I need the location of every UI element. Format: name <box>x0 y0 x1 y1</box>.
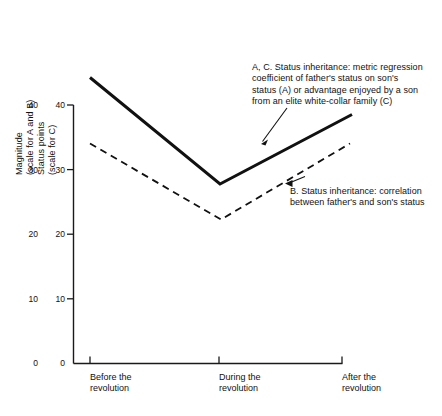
annotation-ac: A, C. Status inheritance: metric regress… <box>252 62 440 108</box>
y-tick-label-left-20: 20 <box>22 229 38 239</box>
y-tick-label-left-40: 40 <box>22 100 38 110</box>
y-tick-label-right-10: 10 <box>49 294 65 304</box>
annotation-b: B. Status inheritance: correlation betwe… <box>290 186 442 209</box>
x-tick-label-during: During the revolution <box>219 372 261 394</box>
y-tick-label-left-10: 10 <box>22 294 38 304</box>
y-tick-label-left-0: 0 <box>22 358 38 368</box>
y-tick-label-left-30: 30 <box>22 165 38 175</box>
chart-figure: Magnitude (scale for A and B) Status poi… <box>0 0 442 416</box>
x-axis-ticks <box>90 357 342 364</box>
leader-line-ac <box>261 108 287 146</box>
y-tick-label-right-20: 20 <box>49 229 65 239</box>
y-tick-label-right-40: 40 <box>49 100 65 110</box>
x-tick-label-before: Before the revolution <box>90 372 132 394</box>
x-tick-label-after: After the revolution <box>342 372 381 394</box>
y-axis-ticks <box>67 105 74 299</box>
y-tick-label-right-0: 0 <box>49 358 65 368</box>
y-tick-label-right-30: 30 <box>49 165 65 175</box>
